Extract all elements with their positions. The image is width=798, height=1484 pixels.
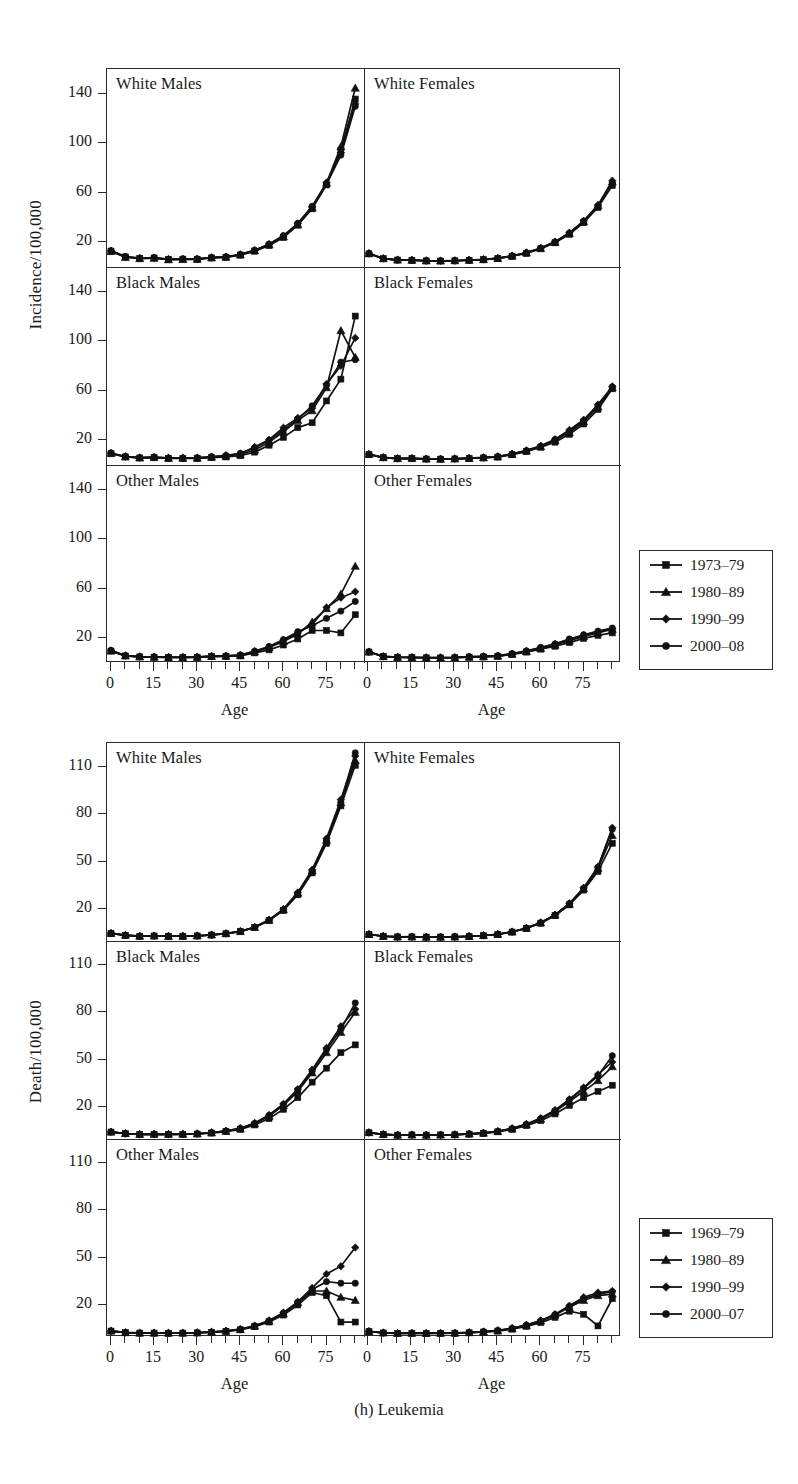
data-point-marker: [309, 420, 315, 426]
legend-item[interactable]: 1980–89: [640, 578, 772, 605]
x-tick-mark: [182, 1336, 183, 1343]
x-tick-mark: [568, 1336, 569, 1343]
series-line-1969–79: [111, 765, 355, 936]
legend-item[interactable]: 1990–99: [640, 605, 772, 632]
y-tick-label: 60: [48, 578, 92, 596]
data-point-marker: [337, 327, 345, 334]
data-point-marker: [466, 455, 472, 461]
data-point-marker: [323, 838, 329, 844]
y-tick-label: 110: [48, 756, 92, 774]
legend-item[interactable]: 1980–89: [640, 1246, 772, 1273]
x-tick-label: 30: [176, 1348, 216, 1366]
x-tick-mark: [396, 1336, 397, 1343]
data-point-marker: [352, 103, 358, 109]
data-point-marker: [662, 1282, 671, 1291]
data-point-marker: [324, 627, 330, 633]
legend-item[interactable]: 1990–99: [640, 1273, 772, 1300]
data-point-marker: [394, 257, 400, 263]
data-point-marker: [581, 632, 587, 638]
y-tick-mark: [98, 142, 106, 143]
x-tick-mark: [268, 662, 269, 669]
legend-item[interactable]: 1969–79: [640, 1219, 772, 1246]
series-line-2000–07: [369, 1056, 612, 1135]
series-line-1980–89: [111, 88, 355, 260]
legend-label: 1980–89: [690, 583, 744, 601]
data-point-marker: [295, 425, 301, 431]
x-tick-label: 0: [347, 1348, 387, 1366]
data-point-marker: [323, 181, 329, 187]
data-point-marker: [208, 454, 214, 460]
data-point-marker: [122, 253, 128, 259]
y-tick-label: 20: [48, 429, 92, 447]
figure-caption: (h) Leukemia: [0, 1400, 798, 1420]
data-point-marker: [509, 451, 515, 457]
x-tick-mark: [439, 1336, 440, 1343]
series-line-2000–08: [111, 360, 355, 458]
data-point-marker: [662, 1310, 669, 1317]
data-point-marker: [223, 930, 229, 936]
data-point-marker: [423, 258, 429, 264]
x-tick-mark: [196, 662, 197, 671]
x-tick-mark: [282, 1336, 283, 1345]
y-tick-label: 50: [48, 851, 92, 869]
data-point-marker: [352, 1280, 358, 1286]
data-point-marker: [151, 933, 157, 939]
y-tick-label: 100: [48, 132, 92, 150]
y-tick-mark: [98, 1162, 106, 1163]
series-line-1969–79: [369, 843, 612, 937]
data-point-marker: [452, 258, 458, 264]
legend-item[interactable]: 2000–07: [640, 1300, 772, 1327]
x-tick-mark: [367, 662, 368, 671]
data-point-marker: [252, 648, 258, 654]
panel-plot-area: [365, 268, 621, 465]
data-point-marker: [309, 1079, 315, 1085]
x-tick-label: 75: [563, 1348, 603, 1366]
data-point-marker: [595, 1073, 601, 1079]
y-tick-label: 80: [48, 1001, 92, 1019]
data-point-marker: [595, 1323, 601, 1329]
series-line-1990–99: [369, 828, 612, 937]
x-tick-mark: [297, 1336, 298, 1343]
data-point-marker: [663, 561, 670, 568]
legend-item[interactable]: 2000–08: [640, 632, 772, 659]
data-point-marker: [523, 925, 529, 931]
x-tick-label: 30: [176, 674, 216, 692]
data-point-marker: [509, 1125, 515, 1131]
data-point-marker: [523, 648, 529, 654]
x-tick-mark: [110, 1336, 111, 1345]
data-point-marker: [223, 1128, 229, 1134]
data-point-marker: [409, 934, 415, 940]
panel-white-males: White Males: [107, 743, 364, 941]
incidence-panel-grid: White MalesWhite FemalesBlack MalesBlack…: [106, 68, 620, 662]
data-point-marker: [194, 654, 200, 660]
data-point-marker: [108, 930, 114, 936]
data-point-marker: [295, 1299, 301, 1305]
y-tick-mark: [98, 861, 106, 862]
data-point-marker: [380, 256, 386, 262]
y-tick-label: 80: [48, 803, 92, 821]
legend-label: 1980–89: [690, 1251, 744, 1269]
data-point-marker: [595, 864, 601, 870]
data-point-marker: [466, 257, 472, 263]
x-tick-mark: [396, 662, 397, 669]
series-line-1969–79: [111, 1045, 355, 1135]
data-point-marker: [480, 1130, 486, 1136]
data-point-marker: [423, 1132, 429, 1138]
y-tick-mark: [98, 766, 106, 767]
data-point-marker: [122, 652, 128, 658]
data-point-marker: [466, 1131, 472, 1137]
data-point-marker: [538, 1318, 544, 1324]
data-point-marker: [108, 647, 114, 653]
data-point-marker: [581, 1296, 587, 1302]
y-tick-mark: [98, 390, 106, 391]
x-tick-mark: [568, 662, 569, 669]
data-point-marker: [366, 451, 372, 457]
data-point-marker: [237, 450, 243, 456]
death-panel-grid: White MalesWhite FemalesBlack MalesBlack…: [106, 742, 620, 1336]
data-point-marker: [137, 255, 143, 261]
legend-marker-square-icon: [649, 1226, 683, 1240]
data-point-marker: [338, 1280, 344, 1286]
data-point-marker: [581, 1095, 587, 1101]
x-tick-mark: [453, 662, 454, 671]
legend-item[interactable]: 1973–79: [640, 551, 772, 578]
